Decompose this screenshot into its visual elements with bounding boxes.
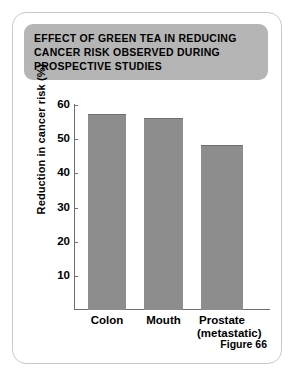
x-category-label-prostate-line1: Prostate (197, 314, 247, 327)
y-tick-label-30: 30 (44, 201, 70, 213)
figure-card: EFFECT OF GREEN TEA IN REDUCING CANCER R… (12, 12, 282, 364)
figure-caption: Figure 66 (220, 338, 267, 350)
bar-chart-plot: Reduction in cancer risk (%) 60 50 40 30… (13, 13, 283, 365)
y-tick-label-20: 20 (44, 235, 70, 247)
bar-prostate (201, 145, 243, 310)
y-tick-mark-60 (74, 105, 78, 106)
y-tick-mark-40 (74, 173, 78, 174)
bar-colon (88, 114, 126, 310)
y-tick-mark-50 (74, 139, 78, 140)
bar-mouth (144, 118, 183, 310)
y-tick-mark-30 (74, 208, 78, 209)
y-tick-label-10: 10 (44, 269, 70, 281)
x-category-label-colon: Colon (85, 314, 129, 327)
x-category-label-prostate: Prostate (metastatic) (197, 314, 247, 340)
y-tick-mark-20 (74, 242, 78, 243)
x-category-label-mouth: Mouth (141, 314, 186, 327)
y-tick-label-60: 60 (44, 98, 70, 110)
y-tick-label-50: 50 (44, 132, 70, 144)
y-tick-mark-10 (74, 276, 78, 277)
y-tick-label-40: 40 (44, 166, 70, 178)
y-axis-line (74, 104, 75, 310)
